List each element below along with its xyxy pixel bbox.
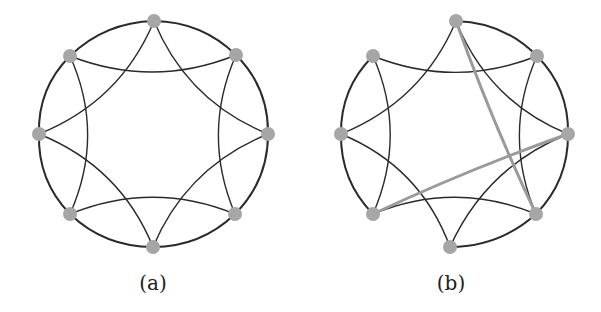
chord-edge	[341, 21, 456, 134]
node-bottom-left	[63, 207, 77, 221]
nodes	[32, 14, 275, 254]
chord-edge	[154, 21, 268, 134]
ring-edge	[536, 134, 568, 214]
chord-edge	[70, 197, 235, 214]
ring-edge	[450, 214, 536, 247]
node-left	[32, 127, 46, 141]
node-bottom-right	[228, 207, 242, 221]
node-top-right	[229, 48, 243, 62]
node-top	[147, 14, 161, 28]
small-world-rewiring-diagram: (a) (b)	[0, 0, 601, 312]
rewired-graph: (b)	[334, 14, 575, 295]
node-left	[334, 127, 348, 141]
node-top-left	[63, 49, 77, 63]
rewired-edge	[456, 21, 536, 214]
ring-edge	[154, 21, 236, 55]
ring-edge	[537, 56, 568, 134]
chord-edge	[153, 134, 268, 247]
graph-label-a: (a)	[139, 271, 167, 295]
ring-edge	[235, 134, 268, 214]
node-right	[261, 127, 275, 141]
chord-edge	[341, 134, 450, 247]
chord-edge	[39, 134, 153, 247]
ring-edge	[236, 55, 268, 134]
ring-lattice-graph: (a)	[32, 14, 275, 295]
chord-edge	[450, 134, 568, 247]
node-top-right	[530, 49, 544, 63]
ring-edge	[153, 214, 235, 247]
rewired-edge	[373, 134, 568, 214]
chord-edge	[373, 56, 537, 72]
chord-edge	[519, 56, 537, 214]
node-top	[449, 14, 463, 28]
chord-edge	[373, 197, 536, 214]
node-bottom-right	[529, 207, 543, 221]
nodes	[334, 14, 575, 254]
ring-edge	[341, 56, 373, 134]
node-bottom	[146, 240, 160, 254]
chord-edge	[456, 21, 568, 134]
chord-edge	[70, 55, 236, 72]
ring-edge	[341, 134, 373, 214]
chord-edge	[70, 56, 88, 214]
chord-edge	[373, 56, 390, 214]
ring-edge	[70, 21, 154, 56]
chord-edge	[218, 55, 236, 214]
node-bottom	[443, 240, 457, 254]
graph-label-b: (b)	[437, 271, 465, 295]
node-top-left	[366, 49, 380, 63]
node-bottom-left	[366, 207, 380, 221]
ring-edge	[70, 214, 153, 247]
chord-edge	[39, 21, 154, 134]
node-right	[561, 127, 575, 141]
